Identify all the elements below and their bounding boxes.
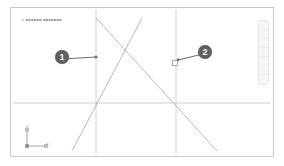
diagonal-down-left[interactable] [72, 18, 142, 151]
callout-marker-2[interactable]: 2 [198, 45, 212, 59]
toolbar-cell[interactable] [259, 66, 268, 75]
axis-y-label: Y [26, 124, 29, 129]
toolbar-cell[interactable] [259, 57, 268, 66]
callout-marker-1[interactable]: 1 [55, 50, 69, 64]
diagonal-down-right[interactable] [96, 18, 217, 151]
toolbar-cell[interactable] [259, 21, 268, 30]
axis-x-label: X [46, 142, 49, 147]
screenshot-root: a ■■■■■■ ■■■■■■■ 1 2 Y X [0, 0, 284, 166]
document-label: a ■■■■■■ ■■■■■■■ [22, 16, 62, 23]
toolbar-cell[interactable] [259, 48, 268, 57]
toolbar-cell[interactable] [259, 75, 268, 84]
toolbar-cell[interactable] [259, 39, 268, 48]
axis-tripod: Y X [22, 124, 52, 152]
leader-endpoint-dot [94, 55, 97, 58]
toolbar-cell[interactable] [259, 30, 268, 39]
vertical-toolbar[interactable] [258, 20, 269, 85]
axis-origin-square [25, 144, 29, 148]
selection-handle-square[interactable] [173, 61, 178, 66]
